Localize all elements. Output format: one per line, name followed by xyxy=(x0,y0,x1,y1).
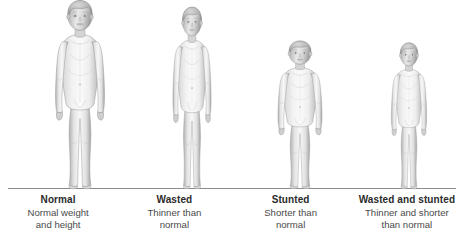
caption-normal: Normal Normal weight and height xyxy=(0,193,116,231)
caption-title-normal: Normal xyxy=(2,193,114,206)
caption-row: Normal Normal weight and height Wasted T… xyxy=(0,193,465,247)
caption-description-line1: Shorter than xyxy=(264,207,317,218)
caption-description-wasted: Thinner than normal xyxy=(118,207,230,231)
caption-description-line2: normal xyxy=(160,219,189,230)
caption-description-line2: than normal xyxy=(382,219,433,230)
caption-wasted-and-stunted: Wasted and stunted Thinner and shorter t… xyxy=(349,193,465,231)
child-figure-stunted xyxy=(278,41,322,189)
caption-description-stunted: Shorter than normal xyxy=(235,207,347,231)
caption-title-stunted: Stunted xyxy=(235,193,347,206)
caption-description-line2: normal xyxy=(276,219,305,230)
caption-title-wasted-and-stunted: Wasted and stunted xyxy=(351,193,463,206)
caption-wasted: Wasted Thinner than normal xyxy=(116,193,232,231)
caption-description-line2: and height xyxy=(36,219,81,230)
caption-stunted: Stunted Shorter than normal xyxy=(233,193,349,231)
caption-description-normal: Normal weight and height xyxy=(2,207,114,231)
child-figure-normal xyxy=(56,1,105,189)
child-figure-wasted xyxy=(173,7,211,189)
child-figure-wasted-and-stunted xyxy=(391,43,426,189)
caption-title-wasted: Wasted xyxy=(118,193,230,206)
caption-description-line1: Thinner and shorter xyxy=(365,207,449,218)
caption-description-line1: Thinner than xyxy=(147,207,201,218)
caption-description-wasted-and-stunted: Thinner and shorter than normal xyxy=(351,207,463,231)
caption-description-line1: Normal weight xyxy=(27,207,88,218)
